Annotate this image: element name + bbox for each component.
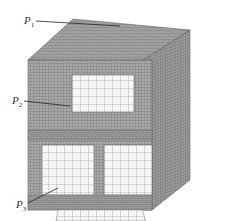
label-p1-sub: 1 (31, 21, 35, 29)
bottom-slab (28, 195, 152, 210)
label-p2-text: P (12, 94, 19, 106)
label-p3: P3 (16, 199, 26, 213)
middle-slab (28, 130, 152, 140)
label-p3-sub: 3 (23, 205, 27, 213)
label-p3-text: P (16, 198, 23, 210)
upper-opening (72, 75, 134, 112)
label-p2-sub: 2 (19, 101, 23, 109)
lower-right-opening (104, 145, 152, 195)
mesh-model (0, 0, 226, 221)
label-p1: P1 (24, 15, 34, 29)
lower-left-opening (42, 145, 94, 195)
label-p2: P2 (12, 95, 22, 109)
label-p1-text: P (24, 14, 31, 26)
base-support (56, 210, 146, 221)
